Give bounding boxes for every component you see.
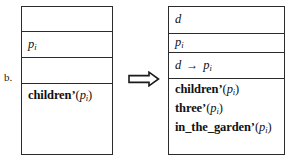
formula-pi: pi <box>28 38 106 52</box>
formula-pi: pi <box>175 36 278 50</box>
stack-cell-d-maps-pi: d→pi <box>169 53 284 79</box>
stack-cell-pi: pi <box>169 34 284 53</box>
formula-children-pi: children’(pi) <box>28 89 106 103</box>
figure-label: b. <box>4 71 12 83</box>
formula-children-pi: children’(pi) <box>175 83 278 97</box>
stack-cell-children: children’(pi) <box>22 84 112 154</box>
double-right-arrow-icon <box>126 68 162 90</box>
stack-cell-empty-top <box>22 7 112 32</box>
formula-d-arrow-pi: d→pi <box>175 59 278 73</box>
right-arrow-icon: → <box>181 58 203 72</box>
formula-three-pi: three’(pi) <box>175 102 278 116</box>
stack-cell-empty-middle <box>22 58 112 84</box>
stack-cell-pi: pi <box>22 32 112 58</box>
formula-in-the-garden-pi: in_the_garden’(pi) <box>175 121 278 135</box>
before-stack-box: pi children’(pi) <box>21 6 113 155</box>
stack-cell-d: d <box>169 7 284 34</box>
formula-d: d <box>175 13 278 26</box>
after-stack-box: d pi d→pi children’(pi) three’(pi) in_th… <box>168 6 285 155</box>
stack-cell-predicate-list: children’(pi) three’(pi) in_the_garden’(… <box>169 79 284 154</box>
